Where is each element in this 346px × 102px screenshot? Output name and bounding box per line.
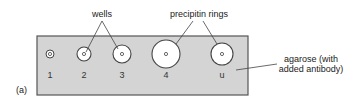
radial-immunodiffusion-diagram: 1 2 3 4 u wells precipitin rings agarose…: [0, 0, 346, 102]
figure-label: (a): [16, 85, 27, 95]
well-label-2: 2: [81, 70, 86, 80]
agarose-callout-line1: agarose (with: [284, 54, 338, 64]
well-label-u: u: [219, 70, 224, 80]
well-u: [211, 43, 233, 65]
well-label-1: 1: [47, 70, 52, 80]
wells-callout: wells: [91, 9, 113, 19]
precipitin-rings-callout: precipitin rings: [170, 9, 229, 19]
well-1: [46, 50, 54, 58]
well-label-3: 3: [119, 70, 124, 80]
agarose-callout-line2: added antibody): [279, 64, 344, 74]
well-4: [152, 40, 180, 68]
well-label-4: 4: [163, 70, 168, 80]
well-2: [77, 47, 91, 61]
well-3: [113, 45, 131, 63]
